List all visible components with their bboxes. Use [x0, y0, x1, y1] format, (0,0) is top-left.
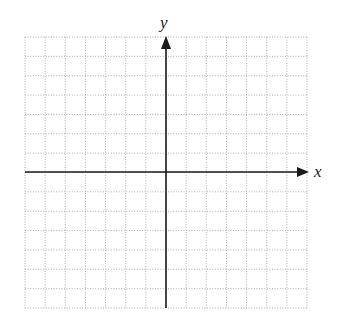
coordinate-plane: x y: [0, 0, 338, 316]
y-axis-label: y: [158, 13, 168, 32]
y-axis-arrowhead-icon: [161, 36, 171, 49]
x-axis-label: x: [313, 162, 322, 181]
